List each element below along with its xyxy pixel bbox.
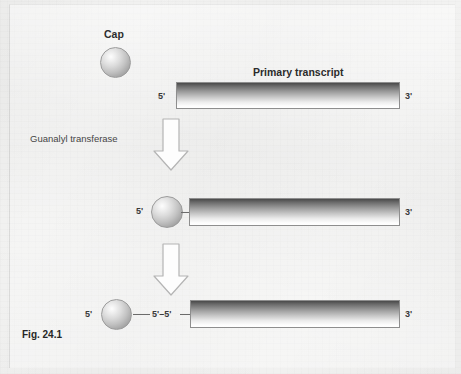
stage2-transcript-bar bbox=[189, 198, 400, 226]
cap-sphere-attached bbox=[151, 196, 183, 228]
cap-label: Cap bbox=[104, 29, 124, 40]
down-arrow-step-1 bbox=[152, 118, 190, 172]
stage3-three-prime-label: 3' bbox=[405, 310, 412, 319]
stage1-three-prime-label: 3' bbox=[405, 92, 412, 101]
stage2-three-prime-label: 3' bbox=[405, 208, 412, 217]
stage3-transcript-bar bbox=[190, 300, 400, 328]
stage3-linkage-connector-left bbox=[133, 314, 150, 315]
guanylyl-transferase-label: Guanalyl transferase bbox=[30, 134, 118, 144]
stage2-five-prime-label: 5' bbox=[136, 207, 143, 216]
stage3-linkage-connector-right bbox=[180, 314, 190, 315]
primary-transcript-title: Primary transcript bbox=[253, 67, 343, 78]
down-arrow-step-2 bbox=[152, 243, 190, 297]
stage3-five-prime-label: 5' bbox=[85, 310, 92, 319]
figure-container: Cap Primary transcript 5' 3' Guanalyl tr… bbox=[0, 0, 461, 374]
stage1-five-prime-label: 5' bbox=[158, 92, 165, 101]
linkage-label: 5'–5' bbox=[152, 310, 171, 319]
cap-sphere-linked bbox=[101, 299, 132, 330]
figure-caption: Fig. 24.1 bbox=[22, 330, 62, 340]
cap-sphere-free bbox=[100, 47, 131, 78]
stage1-transcript-bar bbox=[176, 82, 400, 109]
